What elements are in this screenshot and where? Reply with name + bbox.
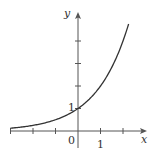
x-axis-label: x bbox=[141, 134, 147, 145]
x-tick-label-1: 1 bbox=[97, 139, 104, 150]
exponential-graph: y x 0 1 1 bbox=[0, 0, 159, 158]
y-tick-label-1: 1 bbox=[68, 102, 75, 113]
plot-canvas bbox=[0, 0, 159, 158]
y-axis-label: y bbox=[64, 8, 70, 19]
origin-label: 0 bbox=[68, 135, 75, 146]
